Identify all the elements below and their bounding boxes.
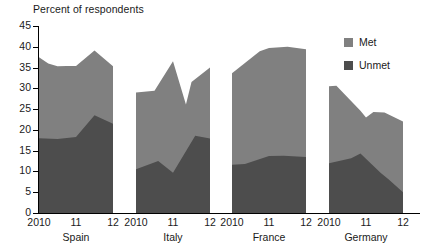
legend-swatch-met (344, 38, 353, 47)
x-axis-tick-label: 11 (71, 216, 82, 228)
legend-item-met[interactable]: Met (344, 33, 390, 51)
chart-container: Percent of respondents 45403530252015105… (0, 0, 427, 247)
panel-group-label-spain: Spain (63, 231, 90, 243)
stacked-area-plot (136, 26, 210, 213)
legend-label-unmet: Unmet (359, 59, 390, 71)
plot-panel-france (232, 26, 306, 213)
y-axis-tick-label: 15 (0, 151, 31, 152)
x-axis-tick-label: 2010 (124, 216, 147, 228)
legend-swatch-unmet (344, 61, 353, 70)
y-axis-tick-label: 30 (0, 88, 31, 89)
panel-group-label-germany: Germany (344, 231, 387, 243)
y-axis-tick-label: 35 (0, 68, 31, 69)
x-axis-tick-label: 12 (300, 216, 312, 228)
y-axis-tick-label: 45 (0, 26, 31, 27)
y-axis-tick-label: 0 (0, 213, 31, 214)
x-axis-tick-label: 2010 (27, 216, 50, 228)
x-axis-tick-label: 11 (264, 216, 275, 228)
legend-item-unmet[interactable]: Unmet (344, 56, 390, 74)
chart-legend: Met Unmet (344, 33, 390, 79)
x-axis-line (38, 213, 420, 214)
legend-label-met: Met (359, 36, 377, 48)
x-axis-tick-label: 2010 (317, 216, 340, 228)
y-axis-tick-label: 5 (0, 192, 31, 193)
chart-axis-title: Percent of respondents (33, 3, 144, 15)
x-axis-tick-label: 11 (168, 216, 179, 228)
stacked-area-plot (39, 26, 113, 213)
area-unmet-france (232, 156, 306, 213)
x-axis-tick-label: 11 (361, 216, 372, 228)
x-axis-tick-label: 12 (107, 216, 119, 228)
x-axis-tick-label: 2010 (220, 216, 243, 228)
y-axis-tick-label: 20 (0, 130, 31, 131)
y-axis-tick-label: 25 (0, 109, 31, 110)
x-axis-tick-label: 12 (204, 216, 216, 228)
y-axis-tick-label: 40 (0, 47, 31, 48)
panel-group-label-france: France (253, 231, 286, 243)
y-axis-tick-label: 10 (0, 171, 31, 172)
panel-group-label-italy: Italy (163, 231, 182, 243)
plot-panel-italy (136, 26, 210, 213)
x-axis-tick-label: 12 (397, 216, 409, 228)
stacked-area-plot (232, 26, 306, 213)
plot-panel-spain (39, 26, 113, 213)
